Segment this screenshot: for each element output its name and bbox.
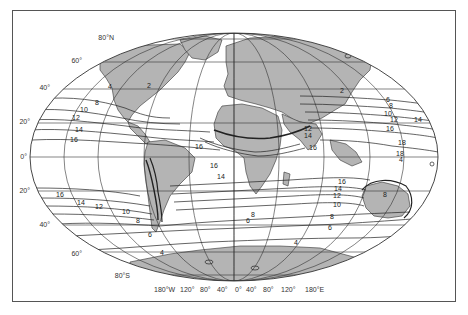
contour-label: 2 <box>147 82 151 89</box>
contour-label: 8 <box>330 213 334 220</box>
lat-label: 60° <box>71 250 82 257</box>
lat-label: 40° <box>39 221 50 228</box>
lat-label: 20° <box>19 187 30 194</box>
longitude-labels: 180°W 120° 80° 40° 0° 40° 80° 120° 180°E <box>154 286 324 293</box>
lat-label: 80°S <box>115 272 131 279</box>
contour-label: 8 <box>389 102 393 109</box>
contour-label: 6 <box>148 231 152 238</box>
contour-label: 8 <box>136 217 140 224</box>
contour-label: 14 <box>75 126 83 133</box>
lon-label: 120° <box>180 286 195 293</box>
contour-label: 14 <box>414 116 422 123</box>
lon-label: 0° <box>235 286 242 293</box>
contour-label: 16 <box>70 136 78 143</box>
lon-label: 80° <box>200 286 211 293</box>
southeast-asia-islands <box>330 140 362 166</box>
contour-label: 6 <box>246 217 250 224</box>
lat-label: 60° <box>71 57 82 64</box>
lon-label: 180°W <box>154 286 175 293</box>
contour-label: 16 <box>386 125 394 132</box>
lat-label: 80°N <box>98 34 114 41</box>
contour-label: 12 <box>72 114 80 121</box>
lat-label: 20° <box>19 118 30 125</box>
contour-label: 4 <box>160 249 164 256</box>
contour-label: 4 <box>108 83 112 90</box>
contour-label: 12 <box>390 116 398 123</box>
contour-label: 16 <box>56 191 64 198</box>
contour-label: 14 <box>334 185 342 192</box>
contour-label: 12 <box>95 203 103 210</box>
contour-label: 10 <box>333 201 341 208</box>
lat-label: 0° <box>20 153 27 160</box>
lon-label: 120° <box>281 286 296 293</box>
contour-label: 12 <box>333 192 341 199</box>
contour-label: 16 <box>338 178 346 185</box>
lon-label: 40° <box>217 286 228 293</box>
contour-label: 6 <box>328 224 332 231</box>
contour-label: 4 <box>399 156 403 163</box>
madagascar <box>283 172 290 186</box>
contour-label: 10 <box>122 208 130 215</box>
lon-label: 40° <box>246 286 257 293</box>
contour-label: 14 <box>304 132 312 139</box>
contour-label: 12 <box>304 125 312 132</box>
world-contour-map: 80°N 60° 40° 20° 0° 20° 40° 60° 80°S 180… <box>0 0 468 315</box>
contour-label: 8 <box>251 211 255 218</box>
contour-label: 10 <box>80 106 88 113</box>
contour-label: 16 <box>210 162 218 169</box>
contour-label: 16 <box>195 143 203 150</box>
contour-label: 4 <box>294 239 298 246</box>
contour-label: 18 <box>398 139 406 146</box>
north-america <box>100 44 190 122</box>
lon-label: 80° <box>263 286 274 293</box>
south-america <box>144 140 195 232</box>
contour-label: 14 <box>77 199 85 206</box>
contour-label: 16 <box>309 144 317 151</box>
contour-label: 2 <box>340 87 344 94</box>
lon-label: 180°E <box>305 286 324 293</box>
contour-label: 8 <box>383 191 387 198</box>
lat-label: 40° <box>39 84 50 91</box>
contour-label: 8 <box>95 99 99 106</box>
contour-label: 14 <box>217 173 225 180</box>
